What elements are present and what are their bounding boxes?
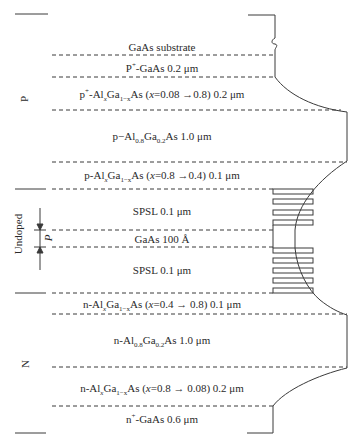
layer-label-n-graded: n-AlxGa1−xAs (x=0.4 → 0.8) 0.1 μm — [50, 298, 274, 311]
layer-label-n-graded-2: n-AlxGa1−xAs (x=0.8 → 0.08) 0.2 μm — [50, 382, 274, 395]
layer-label-substrate: GaAs substrate — [50, 41, 274, 54]
layer-label-n-cladding: n-Al0.8Ga0.2As 1.0 μm — [50, 334, 274, 347]
layer-label-p-graded: p-AlxGa1−xAs (x=0.8 →0.4) 0.1 μm — [50, 169, 274, 182]
arrow-down-icon — [37, 224, 43, 230]
layer-label-n-plus-gaas: n+-GaAs 0.6 μm — [50, 413, 274, 426]
composition-profile — [247, 15, 347, 433]
layer-label-gaas-well: GaAs 100 Å — [50, 233, 274, 246]
region-label-n: N — [19, 360, 31, 368]
region-label-undoped: Undoped — [12, 214, 24, 254]
spsl-upper-bars — [273, 189, 313, 225]
layer-label-spsl-upper: SPSL 0.1 μm — [50, 205, 274, 218]
spsl-lower-bars — [273, 248, 313, 293]
arrow-up-icon — [37, 247, 43, 253]
region-label-p: P — [18, 96, 30, 102]
dimension-label-p: P — [42, 235, 54, 242]
layer-label-p-plus-gaas: P+-GaAs 0.2 μm — [50, 62, 274, 75]
layer-label-p-cladding: p−Al0.8Ga0.2As 1.0 μm — [50, 130, 274, 143]
layer-label-spsl-lower: SPSL 0.1 μm — [50, 264, 274, 277]
layer-label-p-plus-graded: p+-AlxGa1−xAs (x=0.08 →0.8) 0.2 μm — [50, 88, 274, 101]
